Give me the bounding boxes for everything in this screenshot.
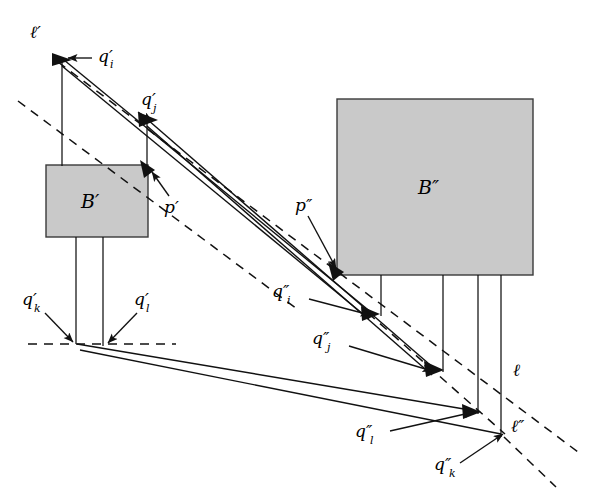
box-b-prime-label: B′ (80, 190, 100, 212)
label-q-l-prime-sub: l (146, 302, 150, 315)
diagram-canvas: B′ B″ (0, 0, 593, 500)
label-q-l-double-prime: q″ l (355, 421, 374, 447)
label-p-double-prime: p″ (295, 195, 313, 215)
arrow-to-q-k-prime (45, 313, 73, 342)
dashed-ell-dprime-tail (504, 437, 556, 487)
arrow-to-q-l-prime (108, 313, 137, 343)
dashed-lower-link (368, 313, 505, 434)
band-lower-b (80, 350, 501, 434)
arrow-to-p-dprime (308, 216, 336, 268)
label-q-j-prime: q′ j (141, 89, 157, 115)
label-q-i-prime: q′ i (98, 46, 114, 71)
arrow-to-q-k-dprime (460, 434, 503, 463)
label-q-k-dprime-sub: k (449, 467, 456, 480)
label-q-i-double-prime: q″ i (272, 281, 291, 307)
band-lower-a (77, 344, 476, 411)
box-b-prime: B′ (46, 165, 148, 237)
label-q-k-double-prime: q″ k (434, 454, 456, 480)
label-q-i-dprime-sub: i (287, 294, 291, 307)
label-q-k-prime-sub: k (34, 302, 41, 315)
label-l-prime: ℓ′ (30, 22, 41, 42)
label-l-double-prime: ℓ″ (511, 416, 525, 436)
arrow-to-p-prime (152, 172, 169, 196)
arrow-to-q-i-dprime (309, 299, 370, 315)
label-q-j-double-prime: q″ j (312, 328, 331, 354)
label-q-l-dprime-sub: l (370, 434, 374, 447)
label-p-prime: p′ (164, 197, 179, 217)
label-q-k-prime: q′ k (22, 289, 41, 315)
label-q-i-prime-sub: i (110, 58, 114, 71)
box-b-double-prime: B″ (337, 99, 533, 275)
diagram-figure: B′ B″ (0, 0, 593, 500)
label-q-l-prime: q′ l (134, 289, 150, 315)
box-b-double-prime-label: B″ (417, 176, 439, 198)
label-l-plain: ℓ (513, 360, 520, 380)
